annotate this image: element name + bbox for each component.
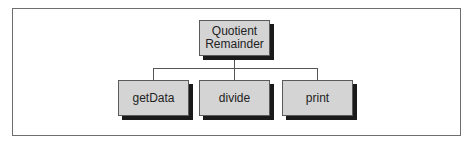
child-node-divide: divide [199, 80, 270, 116]
connector-root-vertical [234, 56, 235, 68]
connector-print [317, 68, 318, 80]
root-label-line-2: Remainder [205, 38, 264, 51]
connector-horizontal [153, 68, 318, 69]
child-label-divide: divide [219, 92, 250, 105]
connector-getdata [153, 68, 154, 80]
child-node-print: print [282, 80, 353, 116]
child-label-getdata: getData [132, 92, 174, 105]
root-node-quotient-remainder: Quotient Remainder [199, 20, 270, 56]
child-label-print: print [306, 92, 329, 105]
connector-divide [234, 68, 235, 80]
child-node-getdata: getData [118, 80, 189, 116]
